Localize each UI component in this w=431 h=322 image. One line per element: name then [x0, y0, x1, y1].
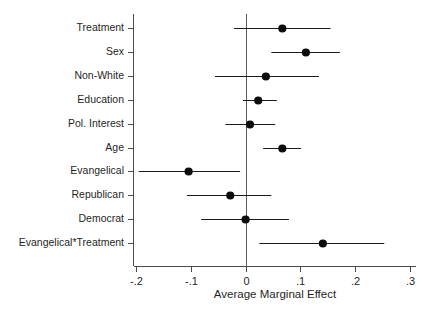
y-tick-label-treatment: Treatment [77, 21, 125, 33]
x-axis-title: Average Marginal Effect [214, 288, 337, 300]
x-tick-label: -.1 [185, 275, 198, 287]
y-tick-label-democrat: Democrat [78, 212, 124, 224]
point-estimate-marker [242, 215, 250, 223]
point-estimate-marker [226, 191, 234, 199]
y-tick-label-pol-interest: Pol. Interest [68, 117, 124, 129]
y-tick-label-education: Education [77, 93, 124, 105]
x-tick-label: 0 [243, 275, 249, 287]
point-estimate-marker [185, 167, 193, 175]
y-tick-label-non-white: Non-White [74, 69, 124, 81]
point-estimate-marker [246, 120, 254, 128]
y-tick-label-age: Age [105, 141, 124, 153]
point-estimate-marker [319, 239, 327, 247]
x-tick-label: .1 [296, 275, 305, 287]
point-estimate-marker [254, 96, 262, 104]
point-estimate-marker [278, 144, 286, 152]
y-tick-label-republican: Republican [71, 188, 124, 200]
x-tick-label: .3 [406, 275, 415, 287]
plot-background [0, 0, 431, 322]
point-estimate-marker [262, 72, 270, 80]
y-tick-label-evangelical: Evangelical [70, 164, 124, 176]
y-tick-label-sex: Sex [106, 45, 125, 57]
x-tick-label: -.2 [130, 275, 143, 287]
x-tick-label: .2 [351, 275, 360, 287]
coefficient-plot-svg: TreatmentSexNon-WhiteEducationPol. Inter… [0, 0, 431, 322]
point-estimate-marker [302, 48, 310, 56]
y-tick-label-evangelical-treatment: Evangelical*Treatment [19, 236, 124, 248]
coefficient-plot-figure: TreatmentSexNon-WhiteEducationPol. Inter… [0, 0, 431, 322]
point-estimate-marker [278, 24, 286, 32]
